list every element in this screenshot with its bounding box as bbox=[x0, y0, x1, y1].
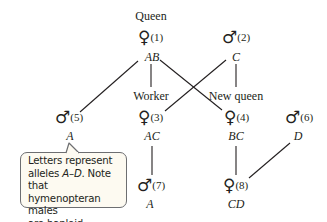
callout-pointer bbox=[0, 0, 327, 222]
pedigree-diagram: Queen ♀(1) AB ♂(2) C Worker New queen ♂(… bbox=[0, 0, 327, 222]
